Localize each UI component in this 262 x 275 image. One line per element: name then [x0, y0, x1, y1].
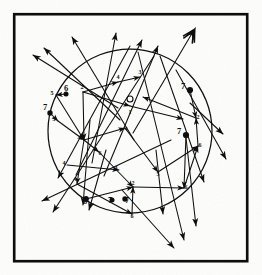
paper-grain	[0, 0, 262, 275]
node-label-n17: 4	[74, 176, 77, 182]
node-label-n14: 6	[131, 213, 134, 219]
node-label-n15: 4	[115, 165, 118, 171]
node-label-n13: 2	[132, 180, 135, 186]
node-label-n23: 4	[125, 126, 128, 132]
node-label-n24: 6	[99, 150, 102, 156]
node-dot-7-left	[47, 110, 52, 115]
node-dot-7-lower	[183, 132, 189, 138]
node-label-n16: 3	[80, 135, 83, 141]
node-label-n10: 6	[199, 142, 202, 148]
node-open-1	[127, 96, 133, 102]
node-label-n5: 5	[51, 90, 54, 96]
node-label-n18: 5	[53, 116, 56, 122]
node-label-n6: 6	[64, 83, 68, 93]
node-label-n12: 5	[157, 171, 160, 177]
node-dot-7-upper	[187, 87, 193, 93]
node-label-n25: 4	[63, 160, 66, 166]
node-label-n1: 1	[129, 109, 132, 115]
node-label-n2: 2	[81, 84, 84, 90]
node-label-n4: 4	[117, 74, 120, 80]
node-label-n11: 6	[185, 184, 188, 190]
node-label-n20: 8	[83, 196, 87, 206]
figure-container: 1234567726652643457877464	[0, 0, 262, 275]
node-label-n9: 2	[197, 114, 200, 120]
diagram-canvas: 1234567726652643457877464	[0, 0, 262, 275]
node-label-n3: 3	[139, 69, 142, 75]
